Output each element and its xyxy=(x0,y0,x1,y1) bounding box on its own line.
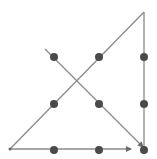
dot-6 xyxy=(140,100,148,108)
dot-5 xyxy=(95,100,103,108)
nine-dots-diagram xyxy=(0,0,157,159)
dot-2 xyxy=(95,53,103,61)
corner-point xyxy=(9,148,12,151)
dot-9 xyxy=(140,146,148,154)
dot-3 xyxy=(140,53,148,61)
dot-4 xyxy=(50,100,58,108)
diagram-canvas xyxy=(0,0,157,159)
dot-8 xyxy=(95,146,103,154)
dot-7 xyxy=(50,146,58,154)
solution-lines xyxy=(9,12,145,151)
dot-1 xyxy=(50,53,58,61)
